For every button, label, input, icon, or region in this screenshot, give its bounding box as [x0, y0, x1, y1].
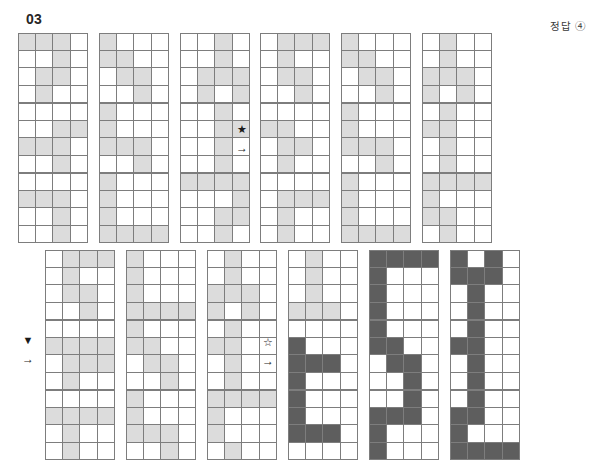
cell-empty [53, 103, 71, 121]
cell-empty [457, 103, 475, 121]
cell-filled [278, 208, 296, 226]
cell-empty [98, 320, 116, 338]
grid-tr-r2c3 [422, 103, 492, 173]
grid-tr-r3c1 [260, 173, 330, 243]
cell-filled [63, 250, 81, 268]
cell-filled [179, 303, 197, 321]
cell-empty [457, 191, 475, 209]
cell-filled [369, 268, 387, 286]
cell-filled [36, 191, 54, 209]
cell-empty [323, 268, 341, 286]
cell-empty [485, 355, 503, 373]
cell-empty [134, 208, 152, 226]
cell-empty [457, 208, 475, 226]
cell-filled [80, 303, 98, 321]
grid-tl-r3c2 [99, 173, 169, 243]
cell-filled [98, 408, 116, 426]
cell-filled [207, 390, 225, 408]
cell-filled [422, 68, 440, 86]
cell-empty [134, 191, 152, 209]
cell-filled [233, 86, 251, 104]
cell-filled [440, 68, 458, 86]
cell-filled [80, 250, 98, 268]
cell-empty [161, 285, 179, 303]
triangle-down-icon: ▼ [22, 335, 34, 346]
cell-empty [475, 33, 493, 51]
cell-empty [260, 250, 278, 268]
cell-empty [387, 268, 405, 286]
cell-empty [341, 338, 359, 356]
cell-empty [180, 138, 198, 156]
cell-filled [278, 33, 296, 51]
cell-filled [369, 425, 387, 443]
cell-empty [503, 355, 521, 373]
cell-empty [485, 373, 503, 391]
cell-filled [306, 425, 324, 443]
cell-filled [242, 285, 260, 303]
cell-filled [313, 191, 331, 209]
cell-filled [134, 156, 152, 174]
cell-empty [99, 68, 117, 86]
cell-empty [440, 86, 458, 104]
cell-filled [306, 250, 324, 268]
cell-empty [359, 208, 377, 226]
cell-empty [376, 51, 394, 69]
cell-filled [80, 338, 98, 356]
cell-empty [376, 208, 394, 226]
cell-empty [98, 285, 116, 303]
cell-empty [126, 373, 144, 391]
cell-filled [341, 173, 359, 191]
cell-filled [144, 338, 162, 356]
cell-filled [359, 51, 377, 69]
cell-filled [323, 355, 341, 373]
cell-empty [144, 443, 162, 460]
cell-empty [475, 191, 493, 209]
cell-filled [225, 320, 243, 338]
cell-empty [152, 68, 170, 86]
cell-empty [295, 208, 313, 226]
cell-empty [341, 443, 359, 460]
cell-empty [450, 320, 468, 338]
cell-filled [295, 68, 313, 86]
cell-filled [404, 373, 422, 391]
cell-filled [215, 103, 233, 121]
cell-empty [323, 338, 341, 356]
cell-empty [313, 138, 331, 156]
cell-filled [376, 226, 394, 244]
cell-filled [36, 68, 54, 86]
cell-filled [53, 121, 71, 139]
cell-empty [394, 138, 412, 156]
triangle-down-marker: ▼ → [22, 335, 34, 365]
cell-empty [45, 390, 63, 408]
cell-filled [99, 51, 117, 69]
cell-empty [242, 425, 260, 443]
grid-bl-r1c2 [126, 250, 196, 320]
cell-empty [180, 51, 198, 69]
cell-empty [313, 86, 331, 104]
cell-filled [450, 338, 468, 356]
cell-filled [341, 208, 359, 226]
cell-filled [468, 390, 486, 408]
cell-filled [288, 390, 306, 408]
cell-empty [404, 443, 422, 460]
cell-empty [359, 121, 377, 139]
cell-filled [450, 250, 468, 268]
cell-empty [288, 250, 306, 268]
arrow-right-icon: → [22, 353, 34, 365]
cell-empty [323, 250, 341, 268]
cell-filled [126, 320, 144, 338]
cell-empty [117, 33, 135, 51]
cell-empty [144, 390, 162, 408]
cell-filled [341, 138, 359, 156]
grid-br-r1c3 [450, 250, 520, 320]
cell-empty [475, 103, 493, 121]
cell-filled [457, 173, 475, 191]
cell-empty [394, 86, 412, 104]
cell-filled [126, 390, 144, 408]
grid-bl-r3c1 [45, 390, 115, 460]
cell-empty [306, 408, 324, 426]
cell-empty [117, 208, 135, 226]
cell-filled [440, 33, 458, 51]
cell-empty [376, 103, 394, 121]
cell-empty [306, 443, 324, 460]
